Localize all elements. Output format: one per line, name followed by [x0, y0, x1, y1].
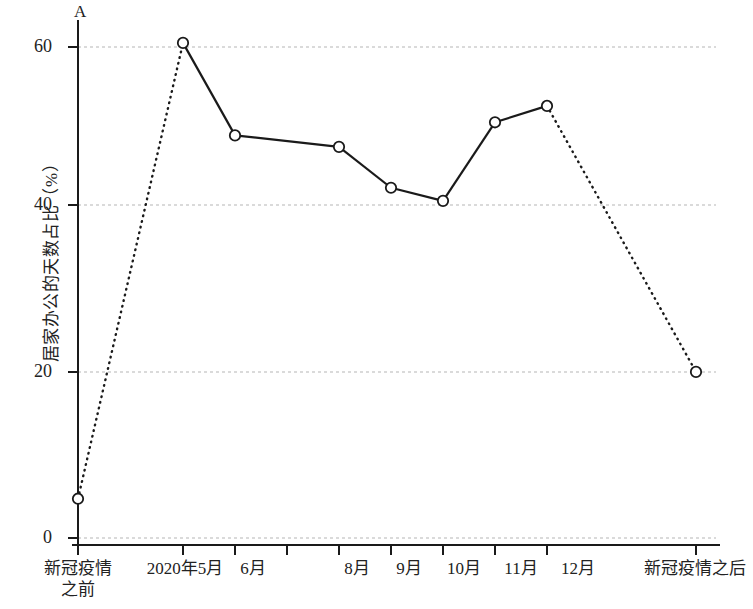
- line-chart: 居家办公的天数占比（%） A 60 40 20 0: [0, 0, 753, 609]
- data-point-marker: [691, 367, 701, 377]
- x-tick-label-september: 9月: [396, 558, 422, 579]
- data-point-marker: [178, 38, 188, 48]
- x-tick-label-pre-covid-line2: 之前: [44, 579, 112, 600]
- x-tick-label-pre-covid-line1: 新冠疫情: [44, 558, 112, 579]
- x-tick-label-october: 10月: [447, 558, 481, 579]
- series-segment: [339, 147, 391, 188]
- data-point-marker: [334, 142, 344, 152]
- plot-area: [0, 0, 753, 609]
- x-tick-label-august: 8月: [344, 558, 370, 579]
- series-segment: [391, 188, 443, 201]
- x-tick-label-november: 11月: [504, 558, 537, 579]
- y-axis-ticks: [68, 47, 78, 538]
- series-segment: [78, 43, 183, 499]
- gridlines: [78, 47, 716, 538]
- series-segment: [495, 106, 547, 122]
- series-segment: [547, 106, 696, 372]
- series-segment: [443, 122, 495, 201]
- data-point-marker: [438, 196, 448, 206]
- data-point-marker: [73, 494, 83, 504]
- data-point-marker: [490, 117, 500, 127]
- x-tick-label-pre-covid: 新冠疫情 之前: [44, 558, 112, 601]
- data-point-marker: [386, 183, 396, 193]
- data-point-marker: [230, 130, 240, 140]
- data-series-line: [78, 43, 696, 499]
- data-point-marker: [542, 101, 552, 111]
- series-segment: [183, 43, 235, 135]
- x-tick-label-post-covid: 新冠疫情之后: [644, 558, 746, 579]
- x-tick-label-2020-may: 2020年5月: [147, 558, 224, 579]
- series-segment: [235, 135, 339, 146]
- x-tick-label-june: 6月: [240, 558, 266, 579]
- x-axis-ticks: [78, 545, 696, 555]
- x-tick-label-december: 12月: [561, 558, 595, 579]
